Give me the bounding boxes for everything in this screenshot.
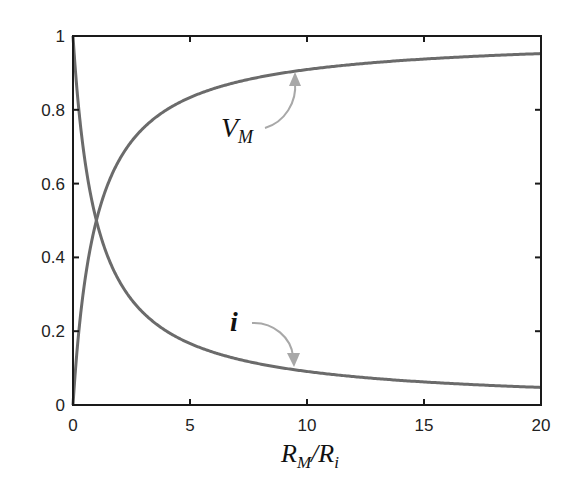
curve-i bbox=[73, 36, 541, 387]
y-tick-label: 0.6 bbox=[41, 175, 65, 194]
y-tick-label: 1 bbox=[56, 27, 65, 46]
vm-arrowhead-icon bbox=[289, 72, 301, 86]
y-tick-labels: 0 0.2 0.4 0.6 0.8 1 bbox=[41, 27, 65, 415]
y-tick-label: 0.4 bbox=[41, 248, 65, 267]
x-tick-label: 0 bbox=[68, 416, 77, 435]
y-tick-label: 0.2 bbox=[41, 322, 65, 341]
x-tick-label: 15 bbox=[415, 416, 434, 435]
i-arrow-icon bbox=[252, 323, 293, 356]
vm-arrow-icon bbox=[265, 82, 295, 128]
axes-box bbox=[73, 36, 541, 405]
x-tick-label: 5 bbox=[185, 416, 194, 435]
plot-area bbox=[73, 36, 541, 405]
vm-label: VM bbox=[221, 112, 254, 147]
x-axis-label: RM/Ri bbox=[280, 439, 339, 472]
curves bbox=[73, 36, 541, 405]
y-tick-label: 0 bbox=[56, 396, 65, 415]
x-tick-labels: 0 5 10 15 20 bbox=[68, 416, 550, 435]
curve-v-m bbox=[73, 54, 541, 405]
i-annotation: i bbox=[230, 306, 300, 367]
i-label: i bbox=[230, 306, 238, 337]
x-tick-label: 20 bbox=[532, 416, 551, 435]
y-tick-label: 0.8 bbox=[41, 101, 65, 120]
x-tick-label: 10 bbox=[298, 416, 317, 435]
ticks bbox=[73, 36, 541, 405]
i-arrowhead-icon bbox=[287, 353, 300, 367]
chart: 0 0.2 0.4 0.6 0.8 1 0 5 10 15 20 RM/Ri V… bbox=[0, 0, 574, 485]
